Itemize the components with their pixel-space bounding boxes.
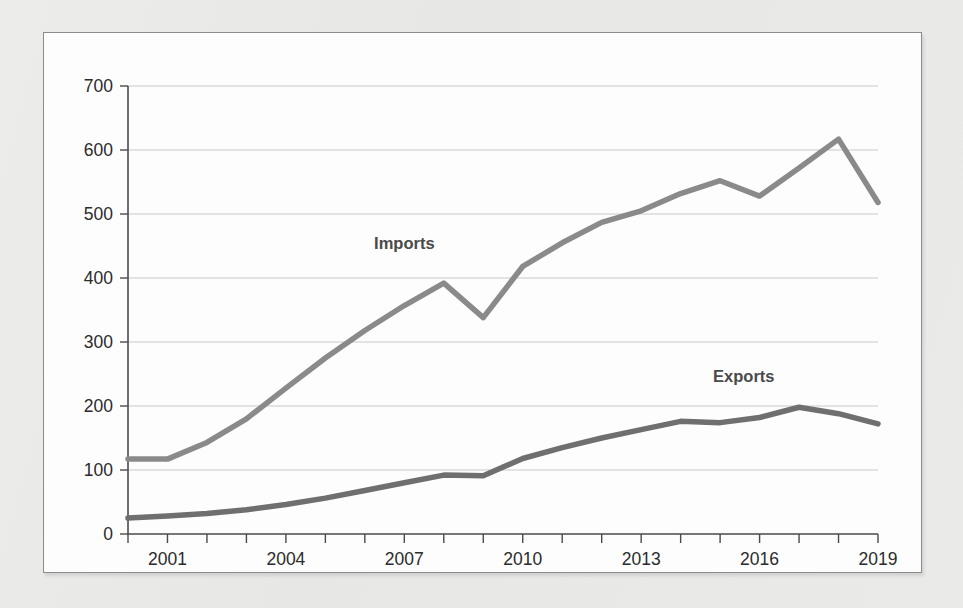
x-tick-label-2004: 2004 <box>266 549 305 569</box>
line-chart-plot: 0100200300400500600700200120042007201020… <box>44 33 923 574</box>
y-tick-label-300: 300 <box>84 332 113 352</box>
series-label-imports: Imports <box>374 234 435 252</box>
x-tick-label-2007: 2007 <box>385 549 424 569</box>
x-tick-label-2001: 2001 <box>148 549 187 569</box>
y-tick-label-500: 500 <box>84 204 113 224</box>
x-tick-label-2016: 2016 <box>740 549 779 569</box>
x-tick-label-2013: 2013 <box>622 549 661 569</box>
y-tick-label-700: 700 <box>84 76 113 96</box>
x-tick-label-2010: 2010 <box>503 549 542 569</box>
chart-card: 0100200300400500600700200120042007201020… <box>43 32 922 573</box>
series-label-exports: Exports <box>713 367 774 385</box>
series-line-imports <box>128 139 878 459</box>
y-tick-label-600: 600 <box>84 140 113 160</box>
y-tick-label-100: 100 <box>84 460 113 480</box>
y-tick-label-200: 200 <box>84 396 113 416</box>
x-tick-label-2019: 2019 <box>859 549 898 569</box>
y-tick-label-0: 0 <box>103 524 113 544</box>
y-tick-label-400: 400 <box>84 268 113 288</box>
